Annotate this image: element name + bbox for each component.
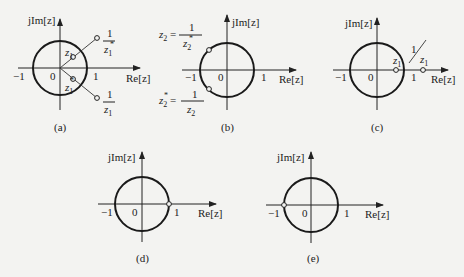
point-at-one — [167, 202, 172, 207]
point-inv-z1 — [421, 68, 426, 73]
tick-neg-one: −1 — [13, 70, 25, 82]
caption-d: (d) — [136, 252, 149, 265]
star-b-top: * — [189, 34, 193, 43]
tick-one: 1 — [411, 71, 417, 83]
real-axis-label: Re[z] — [126, 72, 150, 84]
tick-neg-one: −1 — [268, 207, 280, 219]
panel-b: jIm[z] Re[z] −1 0 1 z2 = 1 z2 * z2 * = 1… — [158, 15, 303, 134]
tick-zero: 0 — [50, 70, 56, 82]
frac-num: 1 — [411, 43, 417, 55]
point-z2-conj — [207, 87, 212, 92]
real-axis-label: Re[z] — [279, 73, 303, 85]
star-b-bot: * — [164, 91, 168, 100]
panel-a: jIm[z] Re[z] −1 0 1 z1 z1 * 1 z1 * 1 z1 … — [13, 14, 150, 134]
tick-one: 1 — [344, 207, 350, 219]
caption-c: (c) — [371, 121, 384, 134]
equals-sign: = — [170, 94, 176, 106]
tick-zero: 0 — [368, 71, 374, 83]
imag-axis-label: jIm[z] — [27, 14, 55, 26]
panel-c: jIm[z] Re[z] −1 0 1 z1 1 z1 (c) — [333, 17, 455, 134]
panel-e: jIm[z] Re[z] −1 0 1 (e) — [266, 151, 389, 265]
tick-neg-one: −1 — [185, 71, 197, 83]
frac-num: 1 — [107, 27, 113, 39]
tick-zero: 0 — [302, 207, 308, 219]
frac-num: 1 — [189, 21, 195, 33]
frac-num: 1 — [107, 88, 113, 100]
tick-neg-one: −1 — [335, 71, 347, 83]
imag-axis-label: jIm[z] — [231, 16, 259, 28]
point-inv-z1-conj — [95, 36, 100, 41]
pole-zero-figure: jIm[z] Re[z] −1 0 1 z1 z1 * 1 z1 * 1 z1 … — [0, 0, 464, 277]
frac-den: z2 — [186, 103, 195, 118]
real-axis-label: Re[z] — [431, 73, 455, 85]
tick-zero: 0 — [132, 206, 138, 218]
imag-axis-label: jIm[z] — [344, 17, 372, 29]
figure-canvas: jIm[z] Re[z] −1 0 1 z1 z1 * 1 z1 * 1 z1 … — [0, 0, 464, 277]
tick-zero: 0 — [218, 71, 224, 83]
point-at-neg-one — [282, 203, 287, 208]
equals-sign: = — [170, 28, 176, 40]
point-z2 — [207, 48, 212, 53]
star-a-conj: * — [70, 76, 74, 85]
caption-a: (a) — [54, 121, 67, 134]
real-axis-label: Re[z] — [198, 207, 222, 219]
point-inv-z1 — [95, 96, 100, 101]
frac-num: 1 — [192, 88, 198, 100]
tick-neg-one: −1 — [101, 206, 113, 218]
frac-den: z1 — [419, 53, 428, 68]
label-z1: z1 — [64, 46, 73, 61]
frac-den: z1 — [103, 103, 112, 118]
imag-axis-label: jIm[z] — [276, 151, 304, 163]
star-a-inv: * — [110, 40, 114, 49]
real-axis-label: Re[z] — [365, 208, 389, 220]
caption-e: (e) — [307, 252, 320, 265]
tick-one: 1 — [174, 206, 180, 218]
label-z2: z2 — [158, 28, 167, 43]
caption-b: (b) — [221, 121, 234, 134]
tick-one: 1 — [261, 71, 267, 83]
tick-one: 1 — [93, 70, 99, 82]
imag-axis-label: jIm[z] — [107, 151, 135, 163]
panel-d: jIm[z] Re[z] −1 0 1 (d) — [98, 151, 222, 265]
